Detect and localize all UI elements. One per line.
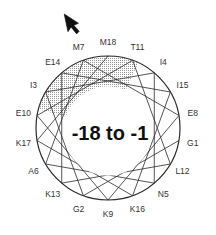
- residue-label: I3: [30, 80, 37, 90]
- residue-label: E14: [45, 57, 60, 67]
- residue-label: K13: [45, 189, 60, 199]
- residue-label: K17: [16, 138, 31, 148]
- residue-label: I15: [177, 80, 189, 90]
- helical-wheel-diagram: G1G2I3I4N5A6M7E8K9E10T11L12K13E14I15K16K…: [0, 0, 216, 235]
- residue-label: E8: [187, 108, 198, 118]
- residue-label: N5: [158, 189, 169, 199]
- residue-label: T11: [130, 42, 144, 52]
- residue-label: L12: [175, 166, 189, 176]
- residue-label: K9: [103, 209, 114, 219]
- residue-label: G2: [73, 204, 85, 214]
- residue-label: I4: [160, 57, 167, 67]
- residue-label: G1: [187, 138, 199, 148]
- residue-label: M7: [73, 42, 85, 52]
- residue-label: M18: [100, 37, 117, 47]
- cursor-arrow-icon: [64, 12, 80, 36]
- residue-label: E10: [16, 108, 31, 118]
- residue-label: K16: [130, 204, 145, 214]
- residue-label: A6: [28, 166, 39, 176]
- center-label: -18 to -1: [72, 122, 149, 144]
